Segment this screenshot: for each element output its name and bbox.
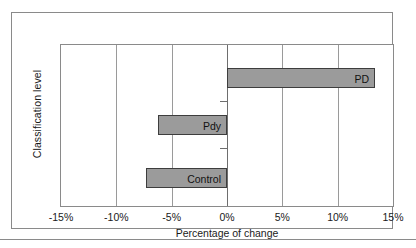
- x-axis-title: Percentage of change: [60, 227, 394, 239]
- x-tick-label: -5%: [162, 211, 181, 223]
- x-tick-label: 5%: [275, 211, 290, 223]
- bar-label-control: Control: [187, 169, 221, 189]
- bar-control: Control: [146, 168, 227, 188]
- x-tick-label: 0%: [219, 211, 234, 223]
- y-axis-title: Classification level: [31, 29, 43, 199]
- gridline: [116, 45, 117, 206]
- x-tick-label: -10%: [104, 211, 129, 223]
- figure-frame: Classification level PDPdyControl Percen…: [11, 12, 393, 229]
- bar-pdy: Pdy: [158, 115, 227, 135]
- plot-area: PDPdyControl: [60, 44, 394, 207]
- figure-bottom-rule: [0, 239, 416, 240]
- x-tick-label: 15%: [382, 211, 403, 223]
- x-tick-label: 10%: [327, 211, 348, 223]
- bar-label-pdy: Pdy: [203, 116, 221, 136]
- x-tick-label: -15%: [49, 211, 74, 223]
- bar-pd: PD: [227, 68, 375, 88]
- bar-label-pd: PD: [354, 69, 369, 89]
- category-tick: [220, 148, 227, 149]
- category-tick: [220, 101, 227, 102]
- plot-inner: PDPdyControl: [61, 45, 393, 206]
